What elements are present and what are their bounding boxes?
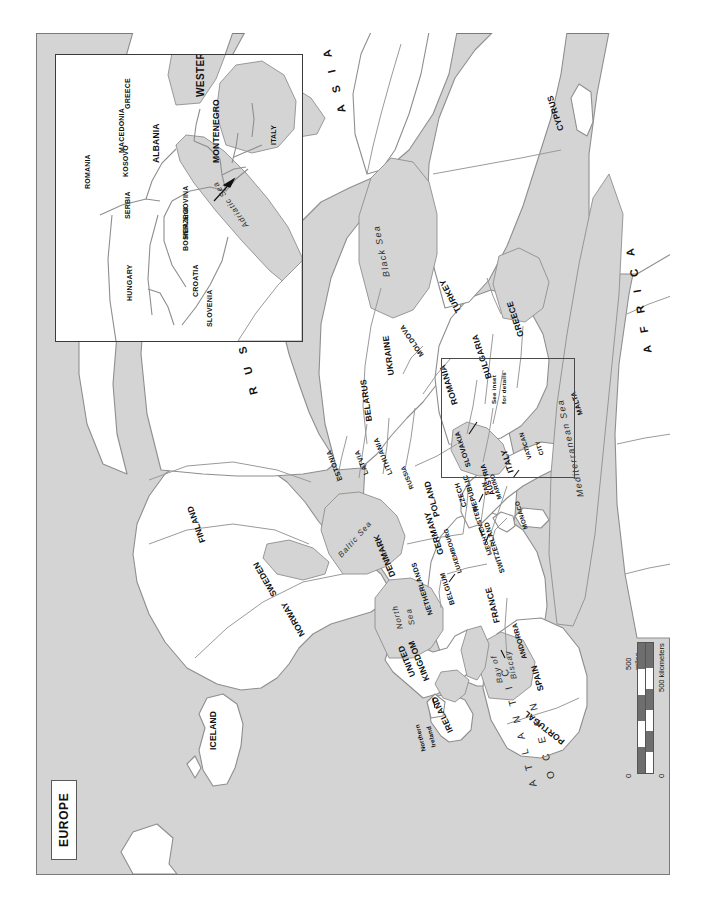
scale-seg xyxy=(646,731,653,752)
inset-label-hungary: HUNGARY xyxy=(126,264,133,301)
scale-seg xyxy=(638,747,645,773)
inset-label-macedonia: MACEDONIA xyxy=(118,108,125,153)
inset-sea-ionian xyxy=(216,61,296,153)
scale-zero-bottom: 0 xyxy=(657,774,666,778)
inset-label-croatia: CROATIA xyxy=(192,264,199,297)
scale-seg xyxy=(646,643,653,668)
inset-label-serbia: SERBIA xyxy=(124,191,131,219)
inset-label-slovenia: SLOVENIA xyxy=(206,290,213,327)
map-frame: ICELAND NORWAY SWEDEN FINLAND ESTONIA LA… xyxy=(36,33,670,875)
land-cyprus xyxy=(571,84,593,136)
scale-seg xyxy=(646,710,653,731)
scale-seg xyxy=(638,721,645,747)
inset-geometry xyxy=(56,54,303,341)
scale-zero-top: 0 xyxy=(624,774,633,778)
scale-seg xyxy=(646,689,653,710)
scale-seg xyxy=(638,643,645,669)
inset-label-romania: ROMANIA xyxy=(84,154,91,189)
inset-map-western-balkans[interactable]: HUNGARY ROMANIA SLOVENIA CROATIA BOSNIA … xyxy=(55,54,303,342)
map-title-box: EUROPE xyxy=(51,780,77,860)
inset-label-italy: ITALY xyxy=(270,125,277,145)
land-iceland xyxy=(199,694,243,786)
scale-seg xyxy=(638,669,645,695)
sea-aegean xyxy=(493,248,549,322)
label-iceland: ICELAND xyxy=(209,711,218,750)
land-iceland-bit xyxy=(187,756,201,778)
inset-label-greece: GREECE xyxy=(124,78,131,109)
scale-bar: 0 500 miles 0 500 k xyxy=(637,642,654,774)
scale-kilometers-label: 500 kilometers xyxy=(657,643,666,692)
map-page: ICELAND NORWAY SWEDEN FINLAND ESTONIA LA… xyxy=(0,0,703,905)
scale-seg xyxy=(638,695,645,721)
inset-label-bosnia-2: HERZEGOVINA xyxy=(182,185,189,239)
map-canvas: ICELAND NORWAY SWEDEN FINLAND ESTONIA LA… xyxy=(36,33,670,875)
inset-locator-rectangle[interactable] xyxy=(441,358,575,478)
scale-seg xyxy=(646,668,653,689)
map-title: EUROPE xyxy=(57,793,71,847)
scale-row-kilometers xyxy=(646,642,654,774)
land-greenland xyxy=(121,824,177,874)
inset-label-albania: ALBANIA xyxy=(152,123,161,163)
inset-label-montenegro: MONTENEGRO xyxy=(212,99,221,163)
inset-title: WESTERN BALKANS xyxy=(196,54,206,97)
scale-row-miles xyxy=(637,642,646,774)
scale-seg xyxy=(646,752,653,773)
